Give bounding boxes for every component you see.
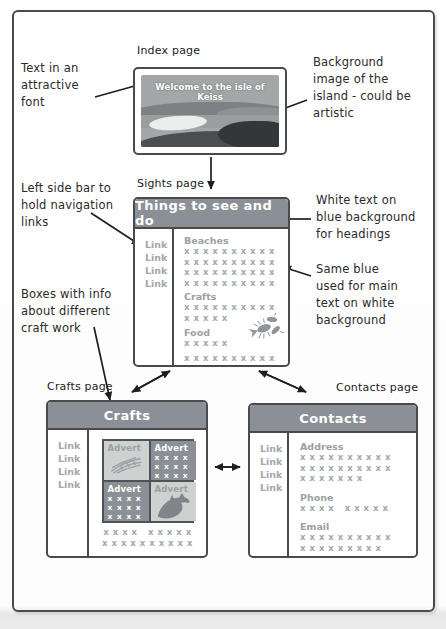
advert-box: Advert [104, 441, 149, 480]
placeholder-text-row: x x x x x x x x x x [184, 267, 288, 278]
section-heading: Crafts [184, 291, 288, 302]
section-heading: Phone [300, 492, 416, 503]
note-line: image of the [313, 71, 411, 88]
sights-content: Beaches x x x x x x x x x x x x x x x x … [174, 229, 288, 365]
note-background-image: Background image of the island - could b… [313, 54, 411, 122]
index-page-label: Index page [137, 44, 200, 57]
sidebar-link: Link [135, 264, 172, 277]
note-line: Boxes with info [21, 286, 111, 303]
crafts-header: Crafts [48, 402, 206, 430]
crafts-sidebar: Link Link Link Link [48, 430, 89, 556]
placeholder-text-row: x x x x [155, 471, 196, 480]
contacts-content: Address x x x x x x x x x x x x x x x x … [289, 433, 416, 556]
advert-box: Advert x x x x x x x x x x x x [151, 441, 196, 480]
sights-sidebar: Link Link Link Link [135, 229, 174, 365]
placeholder-text-row: x x x x [108, 503, 149, 512]
placeholder-text-row: x x x x x x x x x x [184, 278, 288, 289]
advert-label: Advert [155, 443, 196, 453]
note-attractive-font: Text in an attractive font [21, 60, 79, 111]
note-line: attractive [21, 77, 79, 94]
sketch-icon [107, 453, 145, 475]
contacts-page-label: Contacts page [336, 381, 418, 394]
note-line: used for main [316, 278, 398, 295]
sidebar-link: Link [48, 439, 87, 452]
note-line: island - could be [313, 88, 411, 105]
note-line: artistic [313, 105, 411, 122]
sidebar-link: Link [250, 468, 287, 481]
placeholder-text-row: x x x x x x x x x [89, 527, 206, 538]
dolphin-icon [155, 492, 191, 519]
placeholder-text-row: x x x x x x x x x [300, 543, 416, 554]
note-line: background [316, 312, 398, 329]
placeholder-text-row: x x x x [108, 512, 149, 521]
sidebar-link: Link [48, 465, 87, 478]
note-same-blue: Same blue used for main text on white ba… [316, 261, 398, 329]
note-boxes-info: Boxes with info about different craft wo… [21, 286, 111, 337]
placeholder-text-row: x x x x x x x x x x [184, 353, 288, 364]
contacts-sidebar: Link Link Link Link [250, 433, 289, 556]
note-line: about different [21, 303, 111, 320]
placeholder-text-row: x x x x [155, 453, 196, 462]
placeholder-text-row: x x x x [108, 494, 149, 503]
photo-foreground-rocks [218, 121, 279, 147]
crafts-content: Advert Advert [89, 430, 206, 556]
island-photo: Welcome to the isle of Keiss [141, 75, 279, 147]
sights-header: Things to see and do [135, 199, 288, 229]
diagram-canvas: Text in an attractive font Background im… [0, 0, 446, 629]
note-line: Same blue [316, 261, 398, 278]
sidebar-link: Link [250, 442, 287, 455]
note-line: Left side bar to [21, 180, 113, 197]
placeholder-text-row: x x x x x x x x x x [184, 302, 288, 313]
section-heading: Address [300, 441, 416, 452]
index-page-thumbnail: Welcome to the isle of Keiss [133, 67, 287, 155]
note-line: links [21, 214, 113, 231]
note-line: hold navigation [21, 197, 113, 214]
placeholder-text-row: x x x x x x x x x x [300, 463, 416, 474]
sights-page-label: Sights page [137, 177, 204, 190]
contacts-header: Contacts [250, 405, 416, 433]
advert-label: Advert [108, 443, 149, 453]
advert-box: Advert x x x x x x x x x x x x [104, 482, 149, 521]
sidebar-link: Link [250, 481, 287, 494]
placeholder-text-row: x x x x x x x x x x [89, 538, 206, 549]
note-line: Text in an [21, 60, 79, 77]
sidebar-link: Link [135, 277, 172, 290]
advert-grid: Advert Advert [102, 439, 194, 523]
placeholder-text-row: x x x x x x x x x x [184, 257, 288, 268]
note-sidebar: Left side bar to hold navigation links [21, 180, 113, 231]
crafts-page-thumbnail: Crafts Link Link Link Link Advert [46, 400, 208, 558]
advert-label: Advert [108, 484, 149, 494]
note-line: text on white [316, 295, 398, 312]
crafts-page-label: Crafts page [47, 380, 113, 393]
placeholder-text-row: x x x x x x x x x x [300, 532, 416, 543]
placeholder-text-row: x x x x x x x [300, 473, 416, 484]
sidebar-link: Link [48, 478, 87, 491]
note-white-text: White text on blue background for headin… [316, 192, 416, 243]
note-line: font [21, 94, 79, 111]
note-line: White text on [316, 192, 416, 209]
sidebar-link: Link [135, 251, 172, 264]
note-line: for headings [316, 226, 416, 243]
placeholder-text-row: x x x x x x x x x x [300, 452, 416, 463]
sights-page-thumbnail: Things to see and do Link Link Link Link… [133, 197, 290, 367]
sidebar-link: Link [250, 455, 287, 468]
placeholder-text-row: x x x x x x x x x [300, 503, 416, 514]
lobster-icon [246, 313, 284, 343]
placeholder-text-row: x x x x [155, 462, 196, 471]
section-heading: Beaches [184, 235, 288, 246]
index-welcome-title: Welcome to the isle of Keiss [141, 82, 279, 102]
advert-box: Advert [151, 482, 196, 521]
sidebar-link: Link [48, 452, 87, 465]
section-heading: Email [300, 521, 416, 532]
note-line: blue background [316, 209, 416, 226]
note-line: Background [313, 54, 411, 71]
contacts-page-thumbnail: Contacts Link Link Link Link Address x x… [248, 403, 418, 558]
note-line: craft work [21, 320, 111, 337]
placeholder-text-row: x x x x x x x x x x [184, 246, 288, 257]
sidebar-link: Link [135, 238, 172, 251]
